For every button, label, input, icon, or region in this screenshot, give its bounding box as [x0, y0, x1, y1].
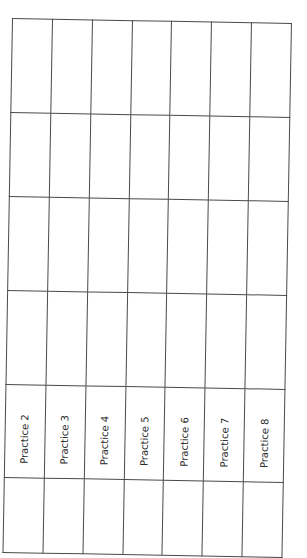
grid-cell — [49, 113, 90, 198]
grid-cell — [202, 481, 243, 557]
label-cell-practice-4: Practice 4 — [84, 386, 125, 480]
label-cell-practice-6: Practice 6 — [164, 387, 205, 481]
grid-cell — [167, 199, 209, 294]
practice-log-sheet: Practice 2 Practice 3 Practice 4 Practic… — [3, 18, 292, 551]
practice-grid-table: Practice 2 Practice 3 Practice 4 Practic… — [2, 18, 291, 558]
grid-row-3 — [8, 196, 289, 295]
grid-cell — [90, 20, 132, 115]
grid-cell — [245, 295, 287, 390]
grid-cell — [11, 19, 53, 114]
grid-cell — [125, 293, 167, 388]
grid-cell — [46, 291, 88, 386]
label-cell-practice-7: Practice 7 — [204, 388, 245, 482]
grid-cell — [8, 196, 50, 291]
grid-cell — [129, 115, 170, 200]
grid-cell — [250, 23, 292, 118]
grid-cell — [248, 117, 289, 202]
practice-label: Practice 2 — [19, 408, 31, 464]
label-cell-practice-3: Practice 3 — [44, 385, 85, 479]
grid-row-1 — [11, 19, 292, 118]
grid-cell — [51, 19, 93, 114]
grid-cell — [43, 478, 84, 554]
grid-cell — [127, 199, 169, 294]
practice-label: Practice 3 — [59, 408, 71, 464]
grid-cell — [170, 21, 212, 116]
grid-row-6 — [3, 477, 283, 557]
grid-cell — [169, 115, 210, 200]
grid-cell — [9, 112, 50, 197]
grid-cell — [86, 292, 128, 387]
grid-cell — [47, 197, 89, 292]
grid-cell — [242, 482, 283, 558]
grid-cell — [3, 477, 44, 553]
practice-label: Practice 4 — [99, 409, 111, 465]
practice-label: Practice 5 — [139, 410, 151, 466]
grid-cell — [207, 200, 249, 295]
grid-cell — [165, 293, 207, 388]
label-cell-practice-5: Practice 5 — [124, 387, 165, 481]
grid-cell — [6, 290, 48, 385]
grid-row-labels: Practice 2 Practice 3 Practice 4 Practic… — [4, 384, 285, 482]
grid-cell — [209, 116, 250, 201]
grid-cell — [89, 114, 130, 199]
grid-cell — [87, 198, 129, 293]
grid-row-2 — [9, 112, 289, 201]
practice-label: Practice 8 — [258, 412, 270, 468]
grid-cell — [210, 22, 252, 117]
grid-cell — [247, 201, 289, 296]
grid-cell — [130, 21, 172, 116]
practice-label: Practice 6 — [178, 411, 190, 467]
grid-row-4 — [6, 290, 287, 389]
label-cell-practice-2: Practice 2 — [4, 384, 45, 478]
grid-cell — [122, 480, 163, 556]
grid-cell — [162, 480, 203, 556]
grid-cell — [205, 294, 247, 389]
label-cell-practice-8: Practice 8 — [243, 389, 285, 483]
grid-cell — [83, 479, 124, 555]
practice-label: Practice 7 — [218, 411, 230, 467]
